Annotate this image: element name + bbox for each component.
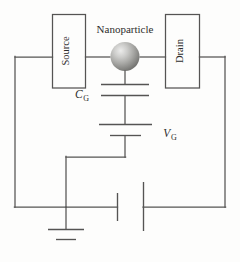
- gate-voltage-label-subscript: G: [171, 133, 177, 142]
- nanoparticle-label: Nanoparticle: [97, 23, 154, 35]
- circuit-diagram: Nanoparticle Source Drain CG VG: [0, 0, 240, 262]
- drain-label: Drain: [174, 38, 185, 63]
- nanoparticle-sphere: [111, 42, 140, 71]
- gate-capacitor-label-main: C: [75, 88, 83, 100]
- gate-capacitor-label-subscript: G: [83, 94, 89, 103]
- source-label: Source: [60, 36, 71, 65]
- gate-capacitor-label: CG: [75, 88, 89, 103]
- circuit-canvas: Nanoparticle Source Drain CG VG: [0, 0, 240, 262]
- gate-voltage-label: VG: [163, 127, 177, 142]
